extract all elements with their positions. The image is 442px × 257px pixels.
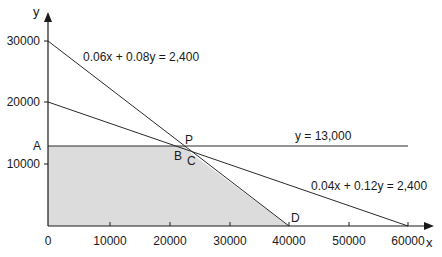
- y-tick-label: 20000: [7, 95, 41, 109]
- x-tick-label: 10000: [93, 234, 127, 248]
- eq1-label: 0.06x + 0.08y = 2,400: [83, 50, 199, 64]
- x-axis-label: x: [426, 235, 433, 250]
- eq2-label: 0.04x + 0.12y = 2,400: [311, 179, 427, 193]
- x-axis-arrow-icon: [424, 222, 434, 230]
- feasible-region: [48, 146, 289, 226]
- y-axis-label: y: [33, 4, 40, 19]
- eq3-label: y = 13,000: [295, 129, 352, 143]
- x-tick-label: 60000: [391, 234, 425, 248]
- x-tick-label: 0: [45, 234, 52, 248]
- point-c-label: C: [187, 154, 196, 168]
- point-p-label: P: [185, 133, 193, 147]
- x-tick-label: 20000: [153, 234, 187, 248]
- chart: y x 30000 20000 10000 0 10000 20000 3000…: [0, 0, 442, 257]
- x-tick-label: 30000: [213, 234, 247, 248]
- y-tick-label: 30000: [7, 34, 41, 48]
- point-d-label: D: [291, 211, 300, 225]
- x-tick-label: 50000: [332, 234, 366, 248]
- x-tick-label: 40000: [272, 234, 306, 248]
- point-b-label: B: [174, 149, 182, 163]
- y-axis-arrow-icon: [44, 12, 52, 22]
- y-tick-label: 10000: [7, 157, 41, 171]
- point-a-label: A: [33, 139, 41, 153]
